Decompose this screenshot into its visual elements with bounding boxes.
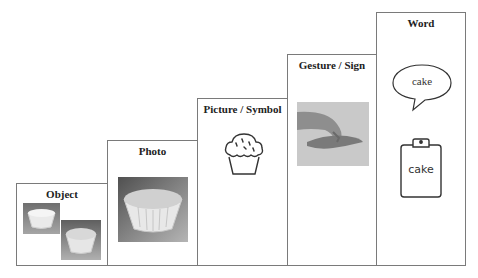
step-gesture-sign: Gesture / Sign xyxy=(287,54,377,266)
clipboard-text: cake xyxy=(399,163,443,176)
step-title-picture-symbol: Picture / Symbol xyxy=(198,103,287,115)
step-title-word: Word xyxy=(377,17,465,29)
step-object: Object xyxy=(16,183,108,266)
object-photo-2 xyxy=(61,220,101,260)
cupcake-photo xyxy=(118,177,188,242)
step-title-gesture-sign: Gesture / Sign xyxy=(288,59,376,71)
speech-bubble-icon: cake xyxy=(391,63,453,113)
hand-sign-photo xyxy=(297,102,369,166)
speech-bubble-text: cake xyxy=(391,75,453,87)
step-word: Word cake cake xyxy=(376,12,466,266)
cupcake-icon xyxy=(222,129,266,179)
object-photo-1 xyxy=(23,203,60,234)
step-title-photo: Photo xyxy=(108,145,197,157)
step-title-object: Object xyxy=(17,188,107,200)
clipboard-icon: cake xyxy=(399,137,443,199)
step-photo: Photo xyxy=(107,140,198,266)
step-picture-symbol: Picture / Symbol xyxy=(197,98,288,266)
